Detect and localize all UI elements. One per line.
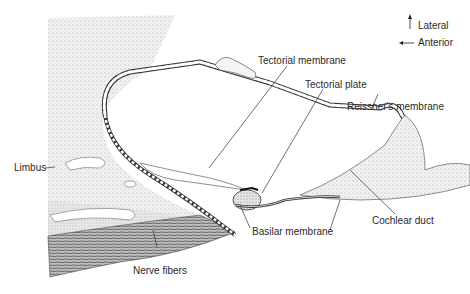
leader-tectorial-membrane [209, 66, 287, 168]
duct-wall [104, 62, 414, 165]
anatomical-illustration [0, 0, 470, 294]
tectorial-plate-label: Tectorial plate [305, 80, 367, 90]
lateral-label: Lateral [418, 21, 449, 31]
anterior-arrow-icon [399, 41, 414, 45]
lateral-arrow-icon [408, 14, 412, 29]
leader-tectorial-plate [262, 89, 323, 193]
tectorial-membrane-label: Tectorial membrane [258, 56, 346, 66]
basilar-membrane-label: Basilar membrane [252, 227, 333, 237]
anterior-label: Anterior [418, 38, 453, 48]
reissners-membrane-label: Reissner's membrane [347, 102, 444, 112]
cochlear-duct-label: Cochlear duct [372, 216, 434, 226]
limbus-label: Limbus [14, 163, 46, 173]
cochlear-duct-diagram: Lateral Anterior Tectorial membrane Tect… [0, 0, 470, 294]
nerve-fibers-label: Nerve fibers [133, 266, 187, 276]
spiral-ligament [300, 115, 470, 200]
